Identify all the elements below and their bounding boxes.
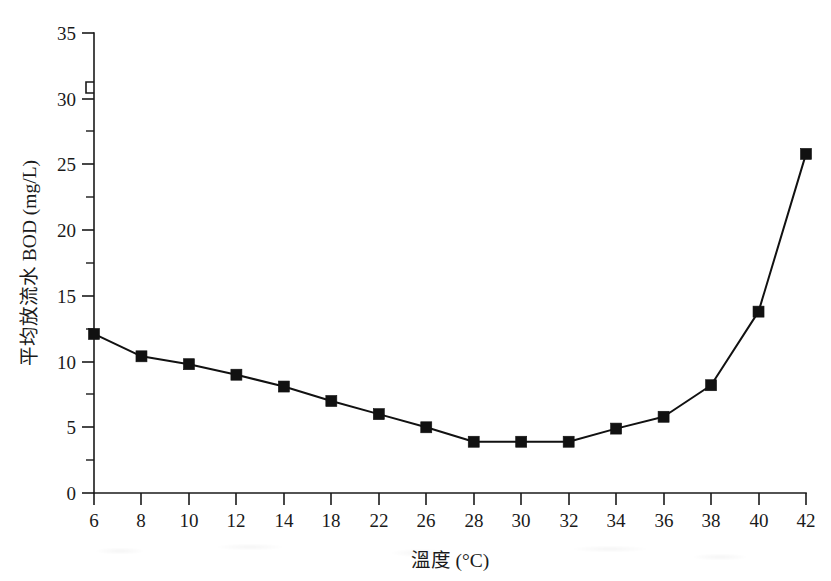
- data-point-marker: [373, 409, 384, 420]
- chart-figure: 35 30 25 20 15 10 5 0 6 8 10 12 14 18 22…: [0, 0, 831, 581]
- data-point-marker: [278, 381, 289, 392]
- y-tick-label: 20: [57, 220, 76, 241]
- x-tick-label: 14: [275, 510, 295, 531]
- data-point-marker: [468, 436, 479, 447]
- data-point-marker: [706, 380, 717, 391]
- data-point-marker: [231, 369, 242, 380]
- data-point-marker: [658, 411, 669, 422]
- x-tick-label: 8: [136, 510, 146, 531]
- chart-background: [0, 0, 831, 581]
- data-point-marker: [326, 396, 337, 407]
- x-tick-label: 30: [512, 510, 531, 531]
- x-tick-label: 6: [89, 510, 99, 531]
- x-tick-label: 22: [370, 510, 389, 531]
- data-point-marker: [563, 436, 574, 447]
- x-tick-label: 32: [560, 510, 579, 531]
- x-tick-label: 42: [797, 510, 816, 531]
- x-tick-label: 12: [227, 510, 246, 531]
- x-tick-label: 28: [465, 510, 484, 531]
- data-point-marker: [753, 306, 764, 317]
- y-axis-title: 平均放流水 BOD (mg/L): [19, 160, 41, 366]
- x-axis-title: 溫度 (°C): [411, 550, 490, 572]
- y-tick-label: 5: [67, 417, 77, 438]
- data-point-marker: [183, 359, 194, 370]
- y-tick-label: 35: [57, 23, 76, 44]
- x-tick-label: 36: [655, 510, 674, 531]
- data-point-marker: [516, 436, 527, 447]
- y-tick-label: 10: [57, 352, 76, 373]
- x-tick-label: 34: [607, 510, 627, 531]
- y-tick-label: 30: [57, 89, 76, 110]
- x-tick-label: 18: [322, 510, 341, 531]
- bod-temperature-line-chart: 35 30 25 20 15 10 5 0 6 8 10 12 14 18 22…: [0, 0, 831, 581]
- data-point-marker: [89, 328, 100, 339]
- data-point-marker: [611, 423, 622, 434]
- y-tick-label: 25: [57, 154, 76, 175]
- data-point-marker: [136, 351, 147, 362]
- data-point-marker: [801, 148, 812, 159]
- data-point-marker: [421, 422, 432, 433]
- x-tick-label: 40: [750, 510, 769, 531]
- x-tick-label: 26: [417, 510, 436, 531]
- y-tick-label: 15: [57, 286, 76, 307]
- x-tick-label: 38: [702, 510, 721, 531]
- y-tick-label: 0: [67, 483, 77, 504]
- x-tick-label: 10: [180, 510, 199, 531]
